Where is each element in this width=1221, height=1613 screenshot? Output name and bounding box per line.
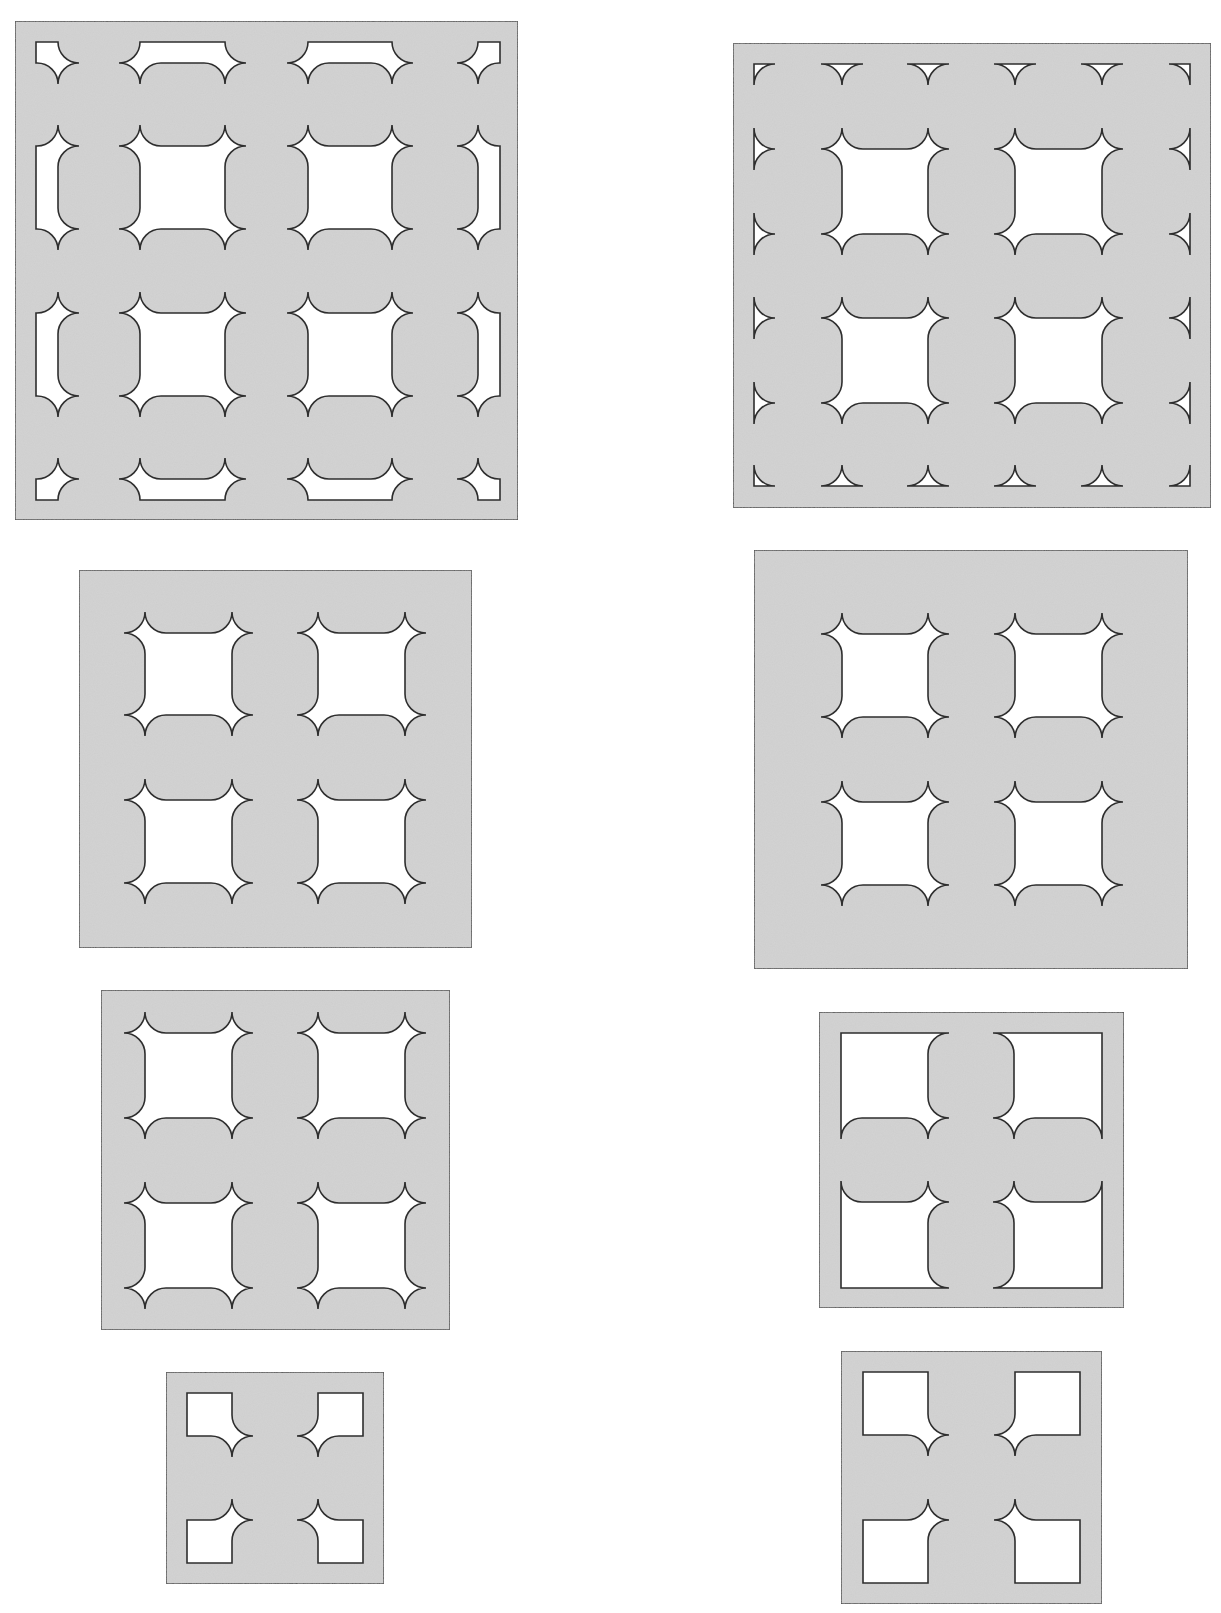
- figure-8: [841, 1351, 1102, 1604]
- figure-3: [79, 570, 472, 948]
- figure-4: [754, 550, 1188, 969]
- figure-6: [819, 1012, 1124, 1308]
- figure-1: [15, 21, 518, 520]
- panel-frame: [754, 550, 1188, 969]
- panel-frame: [15, 21, 518, 520]
- figure-5: [101, 990, 450, 1330]
- figure-group: [15, 21, 1211, 1604]
- figure-7: [166, 1372, 384, 1584]
- diagram-canvas: [0, 0, 1221, 1613]
- figure-2: [733, 43, 1211, 508]
- panel-frame: [733, 43, 1211, 508]
